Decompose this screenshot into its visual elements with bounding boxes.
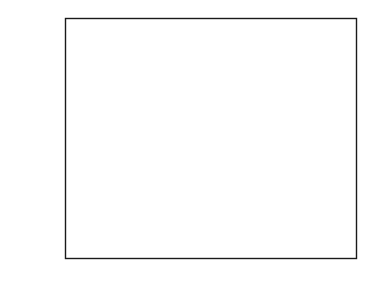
co2-scatter-chart xyxy=(0,0,376,287)
plot-frame xyxy=(66,19,357,259)
figure-container xyxy=(0,0,376,287)
